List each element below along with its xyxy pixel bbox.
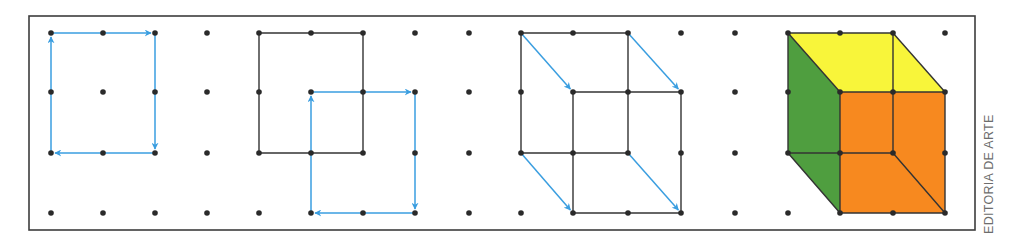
- grid-dot: [732, 150, 738, 156]
- grid-dot: [152, 210, 158, 216]
- grid-dot: [625, 89, 631, 95]
- grid-dot: [518, 89, 524, 95]
- grid-dot: [837, 30, 843, 36]
- arrow: [521, 153, 570, 210]
- grid-dot: [360, 89, 366, 95]
- grid-dot: [518, 150, 524, 156]
- grid-dot: [308, 210, 314, 216]
- grid-dot: [518, 210, 524, 216]
- grid-dot: [678, 89, 684, 95]
- grid-dot: [785, 150, 791, 156]
- grid-dot: [152, 30, 158, 36]
- grid-dot: [785, 89, 791, 95]
- grid-dot: [625, 210, 631, 216]
- grid-dot: [412, 150, 418, 156]
- grid-dot: [518, 30, 524, 36]
- grid-dot: [100, 210, 106, 216]
- grid-dot: [785, 210, 791, 216]
- grid-dot: [256, 150, 262, 156]
- grid-dot: [412, 210, 418, 216]
- grid-dot: [942, 89, 948, 95]
- grid-dot: [678, 210, 684, 216]
- grid-dot: [412, 30, 418, 36]
- grid-dot: [942, 150, 948, 156]
- grid-dot: [466, 89, 472, 95]
- grid-dot: [466, 30, 472, 36]
- grid-dot: [570, 89, 576, 95]
- grid-dot: [48, 30, 54, 36]
- credit-label: EDITORIA DE ARTE: [982, 114, 996, 234]
- grid-dot: [678, 30, 684, 36]
- grid-dot: [678, 150, 684, 156]
- grid-dot: [256, 30, 262, 36]
- grid-dot: [570, 30, 576, 36]
- grid-dot: [412, 89, 418, 95]
- grid-dot: [466, 150, 472, 156]
- grid-dot: [570, 150, 576, 156]
- grid-dot: [785, 30, 791, 36]
- cube-drawing-diagram: [0, 0, 1012, 242]
- grid-dot: [890, 89, 896, 95]
- grid-dot: [308, 89, 314, 95]
- grid-dot: [732, 210, 738, 216]
- arrow: [521, 33, 570, 89]
- grid-dot: [942, 210, 948, 216]
- grid-dot: [204, 150, 210, 156]
- grid-dot: [837, 150, 843, 156]
- grid-dot: [360, 30, 366, 36]
- arrow: [628, 33, 678, 89]
- grid-dot: [308, 150, 314, 156]
- grid-dot: [256, 89, 262, 95]
- grid-dot: [204, 89, 210, 95]
- grid-dot: [100, 89, 106, 95]
- grid-dot: [360, 210, 366, 216]
- grid-dot: [204, 210, 210, 216]
- grid-dot: [732, 89, 738, 95]
- grid-dot: [256, 210, 262, 216]
- arrow: [628, 153, 678, 210]
- grid-dot: [100, 30, 106, 36]
- grid-dot: [48, 210, 54, 216]
- grid-dot: [100, 150, 106, 156]
- grid-dot: [890, 210, 896, 216]
- grid-dot: [360, 150, 366, 156]
- grid-dot: [48, 89, 54, 95]
- grid-dot: [48, 150, 54, 156]
- grid-dot: [466, 210, 472, 216]
- grid-dot: [204, 30, 210, 36]
- grid-dot: [308, 30, 314, 36]
- blue-arrows: [51, 33, 678, 213]
- grid-dot: [570, 210, 576, 216]
- grid-dot: [890, 30, 896, 36]
- grid-dot: [890, 150, 896, 156]
- grid-dot: [837, 89, 843, 95]
- grid-dot: [732, 30, 738, 36]
- grid-dot: [152, 150, 158, 156]
- grid-dot: [837, 210, 843, 216]
- grid-dot: [152, 89, 158, 95]
- grid-dot: [625, 150, 631, 156]
- grid-dot: [942, 30, 948, 36]
- grid-dot: [625, 30, 631, 36]
